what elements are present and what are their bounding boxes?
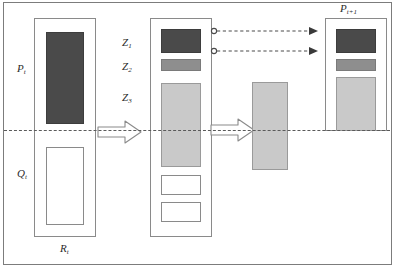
- dashed-arrow-top: [210, 25, 322, 37]
- label-r-t: Rt: [60, 243, 69, 254]
- empty-box-1: [161, 175, 201, 195]
- label-z1-sub: 1: [128, 42, 132, 50]
- label-z3-sub: 3: [128, 97, 132, 105]
- label-p-t1: Pt+1: [340, 3, 357, 14]
- label-q-t-base: Q: [17, 167, 25, 179]
- label-z3: Z3: [122, 92, 132, 103]
- z2-bar: [161, 59, 201, 71]
- label-p-t-sub: t: [24, 68, 26, 76]
- label-q-t: Qt: [17, 168, 27, 179]
- block-arrow-1: [97, 119, 143, 145]
- z1-bar: [161, 29, 201, 53]
- z3-bar: [161, 83, 201, 167]
- diagram-canvas: Pt Qt Rt Z1 Z2 Z3 Pt+1: [0, 0, 396, 268]
- q-t-bar: [46, 147, 84, 225]
- label-p-t1-sub: t+1: [347, 8, 357, 16]
- empty-box-2: [161, 202, 201, 222]
- label-q-t-sub: t: [25, 173, 27, 181]
- p-next-mid-bar: [336, 59, 376, 71]
- label-r-t-sub: t: [67, 248, 69, 256]
- label-p-t: Pt: [17, 63, 26, 74]
- label-z2: Z2: [122, 61, 132, 72]
- label-z1: Z1: [122, 37, 132, 48]
- p-next-dark-bar: [336, 29, 376, 53]
- dashed-arrow-bottom: [210, 45, 322, 57]
- label-p-t-base: P: [17, 62, 24, 74]
- label-p-t1-base: P: [340, 2, 347, 14]
- p-next-light-bar: [336, 77, 376, 131]
- label-r-t-base: R: [60, 242, 67, 254]
- p-t-bar: [46, 32, 84, 124]
- transfer-bar: [252, 82, 288, 170]
- reference-dashed-line: [4, 130, 390, 131]
- label-z2-sub: 2: [128, 66, 132, 74]
